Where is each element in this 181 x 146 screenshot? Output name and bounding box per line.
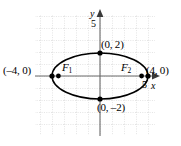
- label-covertex-top: (0, 2): [101, 39, 124, 50]
- y-axis-tick-5: 5: [91, 19, 96, 29]
- ellipse-figure: y 5 x 5 (0, 2) (0, –2) (–4, 0) (4, 0) F1…: [0, 0, 181, 146]
- focus-1-subscript: 1: [69, 66, 73, 75]
- point-focus-2: [139, 74, 144, 79]
- y-axis-arrow: [97, 9, 104, 17]
- x-axis-tick-5: 5: [142, 80, 147, 90]
- point-covertex-top: [97, 50, 102, 55]
- label-focus-2: F2: [121, 62, 131, 75]
- focus-2-subscript: 2: [128, 66, 132, 75]
- label-vertex-left: (–4, 0): [3, 65, 31, 76]
- x-axis-label: x: [151, 81, 155, 91]
- label-vertex-right: (4, 0): [146, 65, 169, 76]
- point-focus-1: [56, 74, 61, 79]
- label-covertex-bottom: (0, –2): [97, 102, 125, 113]
- label-focus-1: F1: [62, 62, 72, 75]
- point-vertex-left: [49, 73, 54, 78]
